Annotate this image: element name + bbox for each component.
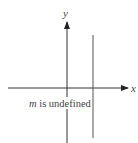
slope-caption: m is undefined — [29, 98, 92, 109]
x-axis-label: x — [130, 82, 136, 94]
slope-caption-text: is undefined — [37, 98, 92, 109]
y-axis-label: y — [62, 7, 68, 19]
slope-diagram: y x m is undefined — [0, 0, 138, 143]
